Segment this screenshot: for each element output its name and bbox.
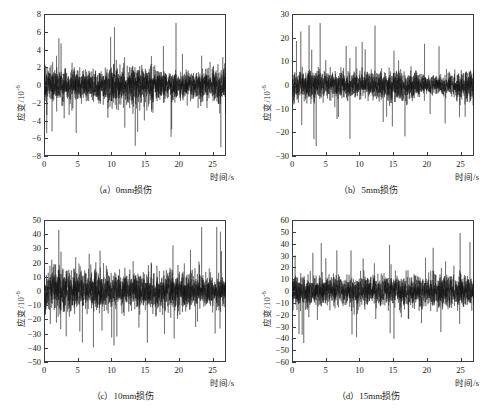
x-tick-c-1: 5 (76, 365, 80, 375)
y-tickmark-c-9 (44, 348, 48, 349)
y-tickmark-a-1 (44, 32, 48, 33)
y-tick-b-3: 0 (285, 80, 292, 90)
panel-caption-b: （b）5mm损伤 (246, 183, 491, 196)
y-tick-a-3: 2 (37, 62, 44, 72)
y-tick-a-6: −4 (32, 116, 44, 126)
x-tick-a-5: 25 (208, 159, 217, 169)
signal-trace-b (292, 14, 474, 156)
x-tickmark-a-0 (44, 152, 45, 156)
y-tickmark-a-6 (44, 121, 48, 122)
y-tick-c-1: 40 (33, 229, 45, 239)
y-tickmark-a-0 (44, 14, 48, 15)
x-tickmark-d-0 (292, 358, 293, 362)
strain-signal-path-c (44, 227, 226, 347)
y-tickmark-d-2 (292, 244, 296, 245)
y-tickmark-c-0 (44, 220, 48, 221)
y-tickmark-d-11 (292, 350, 296, 351)
y-tick-b-5: −20 (276, 127, 292, 137)
x-tick-labels-a: 0510152025 (44, 159, 226, 171)
y-tick-b-0: 30 (281, 9, 293, 19)
y-tick-a-2: 4 (37, 45, 44, 55)
y-tick-d-1: 50 (281, 227, 293, 237)
x-tickmark-b-0 (292, 152, 293, 156)
y-tick-d-7: −10 (276, 298, 292, 308)
x-tickmark-a-4 (179, 152, 180, 156)
x-tick-a-1: 5 (76, 159, 80, 169)
y-tick-c-5: 0 (37, 286, 44, 296)
y-tickmark-a-3 (44, 67, 48, 68)
x-axis-label-b: 时间/s (455, 170, 479, 182)
y-tick-d-11: −50 (276, 345, 292, 355)
x-tickmark-c-0 (44, 358, 45, 362)
y-tickmark-d-0 (292, 220, 296, 221)
y-tick-b-2: 10 (281, 56, 293, 66)
x-tick-labels-b: 0510152025 (292, 159, 474, 171)
x-tick-d-3: 15 (389, 365, 398, 375)
plot-area-c (44, 220, 226, 362)
x-tickmark-c-3 (145, 358, 146, 362)
x-tick-c-5: 25 (208, 365, 217, 375)
y-tickmark-a-2 (44, 50, 48, 51)
panel-caption-a: （a）0mm损伤 (0, 183, 246, 196)
y-tick-c-2: 30 (33, 243, 45, 253)
strain-timehistory-figure: 应变/10-6 86420−2−4−6−8 0510152025 时间/s （a… (0, 0, 491, 411)
y-tick-c-0: 50 (33, 215, 45, 225)
y-tickmark-d-8 (292, 315, 296, 316)
x-tickmark-d-1 (326, 358, 327, 362)
strain-signal-path-d (292, 233, 474, 343)
y-tick-d-0: 60 (281, 215, 293, 225)
y-tick-a-5: −2 (32, 98, 44, 108)
x-tick-b-1: 5 (324, 159, 328, 169)
y-tickmark-b-2 (292, 61, 296, 62)
x-tick-b-2: 10 (355, 159, 364, 169)
y-tick-d-9: −30 (276, 322, 292, 332)
y-tickmark-d-1 (292, 232, 296, 233)
x-tickmark-b-2 (359, 152, 360, 156)
y-tickmark-a-8 (44, 156, 48, 157)
y-tick-d-4: 20 (281, 262, 293, 272)
panel-caption-d: （d）15mm损伤 (246, 389, 491, 402)
y-tickmark-c-5 (44, 291, 48, 292)
y-tickmark-d-5 (292, 279, 296, 280)
y-tick-d-5: 10 (281, 274, 293, 284)
y-tickmark-d-12 (292, 362, 296, 363)
x-tickmark-d-2 (359, 358, 360, 362)
y-tick-b-1: 20 (281, 33, 293, 43)
x-tickmark-a-5 (213, 152, 214, 156)
x-axis-label-a: 时间/s (210, 170, 234, 182)
y-tickmark-b-0 (292, 14, 296, 15)
y-tick-c-8: −30 (28, 329, 44, 339)
x-tickmark-d-4 (427, 358, 428, 362)
plot-area-a (44, 14, 226, 156)
x-tick-d-5: 25 (456, 365, 465, 375)
y-tickmark-c-1 (44, 234, 48, 235)
x-axis-label-c: 时间/s (210, 376, 234, 388)
y-tickmark-a-4 (44, 85, 48, 86)
x-tickmark-a-2 (111, 152, 112, 156)
y-tick-d-3: 30 (281, 251, 293, 261)
y-tickmark-c-8 (44, 334, 48, 335)
y-tick-d-2: 40 (281, 239, 293, 249)
x-tick-labels-d: 0510152025 (292, 365, 474, 377)
y-tick-d-10: −40 (276, 333, 292, 343)
y-tick-c-3: 20 (33, 258, 45, 268)
signal-trace-c (44, 220, 226, 362)
y-tick-d-6: 0 (285, 286, 292, 296)
signal-trace-a (44, 14, 226, 156)
y-tick-labels-b: 3020100−10−20−30 (258, 14, 292, 156)
y-tickmark-b-4 (292, 109, 296, 110)
x-tick-d-0: 0 (290, 365, 294, 375)
x-tick-b-0: 0 (290, 159, 294, 169)
y-tickmark-d-9 (292, 327, 296, 328)
x-tick-d-4: 20 (423, 365, 432, 375)
y-tick-a-7: −6 (32, 133, 44, 143)
x-tick-c-3: 15 (141, 365, 150, 375)
y-tickmark-c-7 (44, 319, 48, 320)
y-tickmark-a-5 (44, 103, 48, 104)
x-tickmark-d-5 (461, 358, 462, 362)
y-tickmark-b-6 (292, 156, 296, 157)
y-tickmark-c-2 (44, 248, 48, 249)
x-tickmark-c-1 (78, 358, 79, 362)
x-tick-labels-c: 0510152025 (44, 365, 226, 377)
x-tick-a-0: 0 (42, 159, 46, 169)
